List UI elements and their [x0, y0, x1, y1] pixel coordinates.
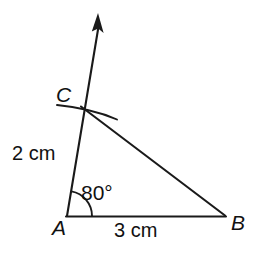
- side-length-label-ab: 3 cm: [114, 220, 157, 240]
- vertex-label-c: C: [56, 84, 71, 105]
- geometry-figure: [0, 0, 259, 255]
- diagram-canvas: C A B 2 cm 3 cm 80°: [0, 0, 259, 255]
- vertex-label-b: B: [231, 212, 245, 233]
- vertex-label-a: A: [52, 217, 66, 238]
- angle-measure-label-a: 80°: [81, 182, 113, 203]
- side-length-label-ac: 2 cm: [12, 143, 55, 163]
